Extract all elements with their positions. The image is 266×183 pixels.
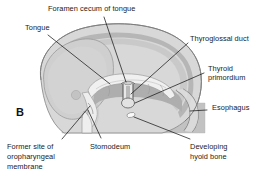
label-esophagus: Esophagus: [212, 104, 249, 113]
figure-panel-b: Foramen cecum of tongue Tongue Thyroglos…: [0, 0, 266, 183]
label-developing-hyoid-line2: hyoid bone: [190, 153, 227, 162]
label-thyroglossal-duct: Thyroglossal duct: [190, 35, 249, 44]
label-foramen-cecum: Foramen cecum of tongue: [48, 5, 135, 14]
label-tongue: Tongue: [25, 24, 50, 33]
label-developing-hyoid-line1: Developing: [190, 143, 227, 152]
thyroid-primordium-structure: [122, 98, 135, 108]
panel-letter-b: B: [16, 106, 24, 118]
label-thyroid-primordium-line2: primordium: [208, 74, 245, 83]
label-stomodeum: Stomodeum: [90, 143, 130, 152]
label-former-site-line2: oropharyngeal: [7, 153, 55, 162]
label-former-site-line1: Former site of: [7, 143, 53, 152]
label-former-site-line3: membrane: [7, 163, 43, 172]
